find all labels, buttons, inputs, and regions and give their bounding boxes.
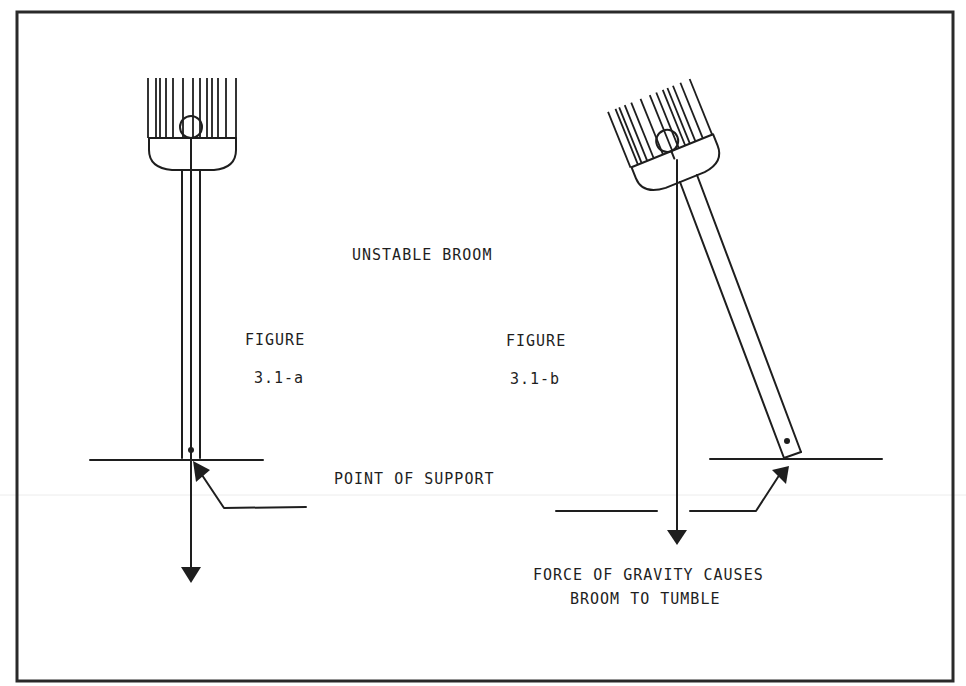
bristle — [690, 79, 712, 135]
broom-a-bristles — [148, 78, 236, 138]
unstable-broom-diagram: UNSTABLE BROOM FIGURE 3.1-a FIGURE 3.1-b… — [0, 0, 966, 686]
bristle — [641, 99, 663, 155]
broom-a-head — [149, 138, 236, 170]
broom-b-center-of-mass-dot — [784, 438, 790, 444]
support-arrowhead-a — [193, 461, 210, 482]
figure-b-label: FIGURE — [506, 332, 566, 350]
point-of-support-label: POINT OF SUPPORT — [334, 470, 495, 488]
broom-b-head-tick — [671, 151, 674, 158]
gravity-caption-line2: BROOM TO TUMBLE — [570, 590, 720, 608]
figure-a-number: 3.1-a — [254, 369, 304, 387]
broom-b-handle-right — [697, 175, 801, 452]
bristle — [619, 107, 641, 163]
diagram-title: UNSTABLE BROOM — [352, 246, 492, 264]
figure-b-number: 3.1-b — [510, 370, 560, 388]
broom-b — [608, 79, 801, 545]
diagram-frame — [17, 12, 953, 681]
support-leader-a — [200, 472, 306, 508]
broom-b-bristles — [608, 79, 712, 168]
broom-b-gravity-arrowhead — [667, 530, 687, 545]
gravity-caption-line1: FORCE OF GRAVITY CAUSES — [533, 566, 764, 584]
broom-b-handle-end — [784, 452, 801, 458]
support-leader-b — [690, 474, 780, 511]
broom-a-center-of-mass-dot — [188, 447, 194, 453]
broom-b-handle-left — [680, 182, 784, 458]
figure-a-label: FIGURE — [245, 331, 305, 349]
broom-b-pivot-circle — [653, 127, 682, 156]
broom-a-gravity-arrowhead — [181, 567, 201, 583]
